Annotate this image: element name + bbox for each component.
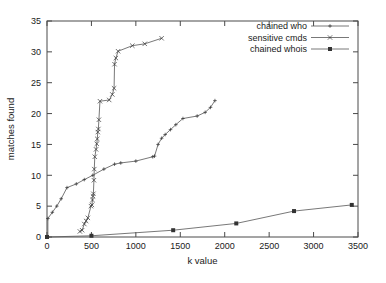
chart-legend: chained whosensitive cmdschained whois [248,21,349,54]
data-point-marker [156,143,160,147]
data-point-marker [350,203,354,207]
data-point-marker [151,155,155,159]
y-tick-label: 25 [31,78,41,88]
x-axis-ticks: 0500100015002000250030003500 [44,21,368,251]
plot-border [47,21,358,237]
series-chained-who [46,99,217,239]
legend-label-2: chained whois [250,44,308,54]
data-point-marker [110,92,114,96]
data-point-marker [234,221,238,225]
data-point-marker [171,228,175,232]
data-point-marker [65,186,69,190]
x-tick-label: 500 [84,241,99,251]
x-tick-label: 0 [44,241,49,251]
data-point-marker [113,162,117,166]
y-axis-title: matches found [5,98,16,160]
x-tick-label: 2500 [259,241,279,251]
legend-label-1: sensitive cmds [248,33,308,43]
y-tick-label: 0 [36,232,41,242]
data-point-marker [159,36,163,40]
data-point-marker [45,235,49,239]
series-sensitive-cmds [78,36,164,234]
series-path [80,38,162,231]
data-point-marker [119,161,123,165]
data-series-layer [45,36,354,239]
x-tick-label: 3000 [304,241,324,251]
data-point-marker [75,182,79,186]
data-point-marker [89,234,93,238]
chart-container: 05101520253035 0500100015002000250030003… [0,0,386,283]
legend-marker-2 [328,47,332,51]
series-path [47,205,352,237]
data-point-marker [102,167,106,171]
data-point-marker [83,178,87,182]
chart-plot-area: 05101520253035 0500100015002000250030003… [0,0,386,283]
x-axis-title: k value [187,255,217,266]
y-axis-ticks: 05101520253035 [31,16,358,242]
y-tick-label: 10 [31,171,41,181]
x-tick-label: 3500 [348,241,368,251]
plot-frame [47,21,358,237]
y-tick-label: 20 [31,109,41,119]
data-point-marker [59,197,63,201]
x-tick-label: 2000 [215,241,235,251]
y-tick-label: 15 [31,140,41,150]
series-path [48,101,215,237]
y-tick-label: 35 [31,16,41,26]
x-tick-label: 1500 [170,241,190,251]
data-point-marker [116,49,120,53]
data-point-marker [292,209,296,213]
data-point-marker [80,228,84,232]
data-point-marker [153,154,157,158]
y-tick-label: 30 [31,47,41,57]
legend-marker-0 [328,24,332,28]
legend-label-0: chained who [256,21,307,31]
data-point-marker [134,159,138,163]
x-tick-label: 1000 [126,241,146,251]
y-tick-label: 5 [36,201,41,211]
data-point-marker [195,114,199,118]
